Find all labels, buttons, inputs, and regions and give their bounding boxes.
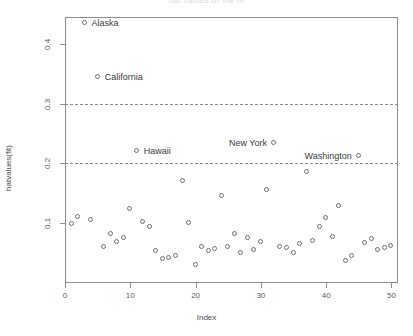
point-label-new-york: New York	[229, 138, 267, 148]
x-tick-mark	[196, 283, 197, 288]
data-point	[232, 231, 237, 236]
data-point	[88, 217, 93, 222]
x-tick-label: 20	[184, 291, 208, 300]
data-point	[160, 256, 165, 261]
data-point	[245, 235, 250, 240]
data-point	[95, 74, 100, 79]
data-point	[369, 236, 374, 241]
data-point	[310, 238, 315, 243]
data-point	[258, 239, 263, 244]
y-tick-label: 0.4	[43, 34, 52, 54]
data-point	[180, 178, 185, 183]
x-tick-label: 40	[314, 291, 338, 300]
data-point	[82, 20, 87, 25]
chart-title: hat values of the fit	[0, 0, 413, 5]
data-point	[291, 250, 296, 255]
x-axis-label: Index	[0, 313, 413, 322]
data-point	[251, 247, 256, 252]
data-point	[330, 234, 335, 239]
reference-line-0	[65, 104, 398, 105]
point-label-california: California	[105, 72, 143, 82]
y-tick-label: 0.1	[43, 213, 52, 233]
data-point	[108, 231, 113, 236]
point-label-alaska: Alaska	[92, 18, 119, 28]
point-label-hawaii: Hawaii	[144, 146, 171, 156]
y-tick-label: 0.3	[43, 94, 52, 114]
scatter-plot-figure: hat values of the fit hatvalues(fit) Ind…	[0, 0, 413, 336]
reference-line-1	[65, 163, 398, 164]
x-tick-mark	[391, 283, 392, 288]
y-axis-label: hatvalues(fit)	[4, 145, 13, 191]
x-tick-mark	[261, 283, 262, 288]
x-tick-mark	[326, 283, 327, 288]
x-tick-label: 50	[379, 291, 403, 300]
data-point	[349, 253, 354, 258]
x-tick-label: 0	[53, 291, 77, 300]
y-tick-mark	[60, 104, 65, 105]
x-tick-mark	[130, 283, 131, 288]
data-point	[317, 224, 322, 229]
y-tick-label: 0.2	[43, 153, 52, 173]
point-label-washington: Washington	[305, 151, 352, 161]
data-point	[271, 140, 276, 145]
data-point	[284, 245, 289, 250]
data-point	[225, 244, 230, 249]
data-point	[206, 248, 211, 253]
x-tick-mark	[65, 283, 66, 288]
y-tick-mark	[60, 163, 65, 164]
y-tick-mark	[60, 44, 65, 45]
data-point	[121, 235, 126, 240]
x-tick-label: 30	[249, 291, 273, 300]
y-tick-mark	[60, 223, 65, 224]
data-point	[193, 262, 198, 267]
x-tick-label: 10	[118, 291, 142, 300]
